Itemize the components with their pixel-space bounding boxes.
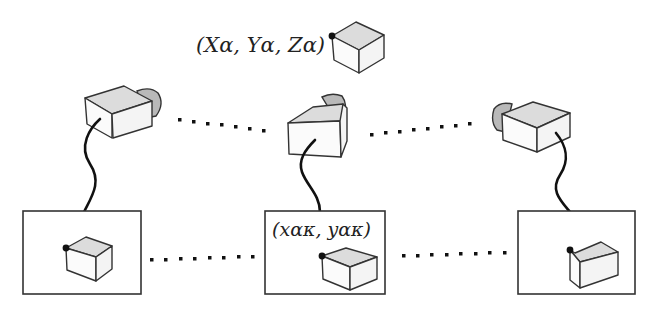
- camera-icon: [493, 102, 570, 152]
- image-point-label: (xακ, yακ): [272, 218, 371, 240]
- camera-center: [288, 94, 347, 212]
- multi-view-diagram: (Xα, Yα, Zα): [0, 0, 650, 309]
- world-point-label: (Xα, Yα, Zα): [196, 33, 325, 57]
- camera-right: [493, 102, 570, 212]
- image-center: (xακ, yακ): [265, 211, 385, 294]
- camera-icon: [85, 86, 161, 138]
- image-right: [518, 211, 635, 294]
- cable-left: [84, 119, 100, 212]
- camera-left: [84, 86, 161, 212]
- cable-right: [556, 133, 570, 212]
- world-point: (Xα, Yα, Zα): [196, 22, 384, 73]
- image-left: [23, 211, 141, 294]
- camera-icon: [288, 94, 347, 157]
- cube-icon: [329, 22, 384, 73]
